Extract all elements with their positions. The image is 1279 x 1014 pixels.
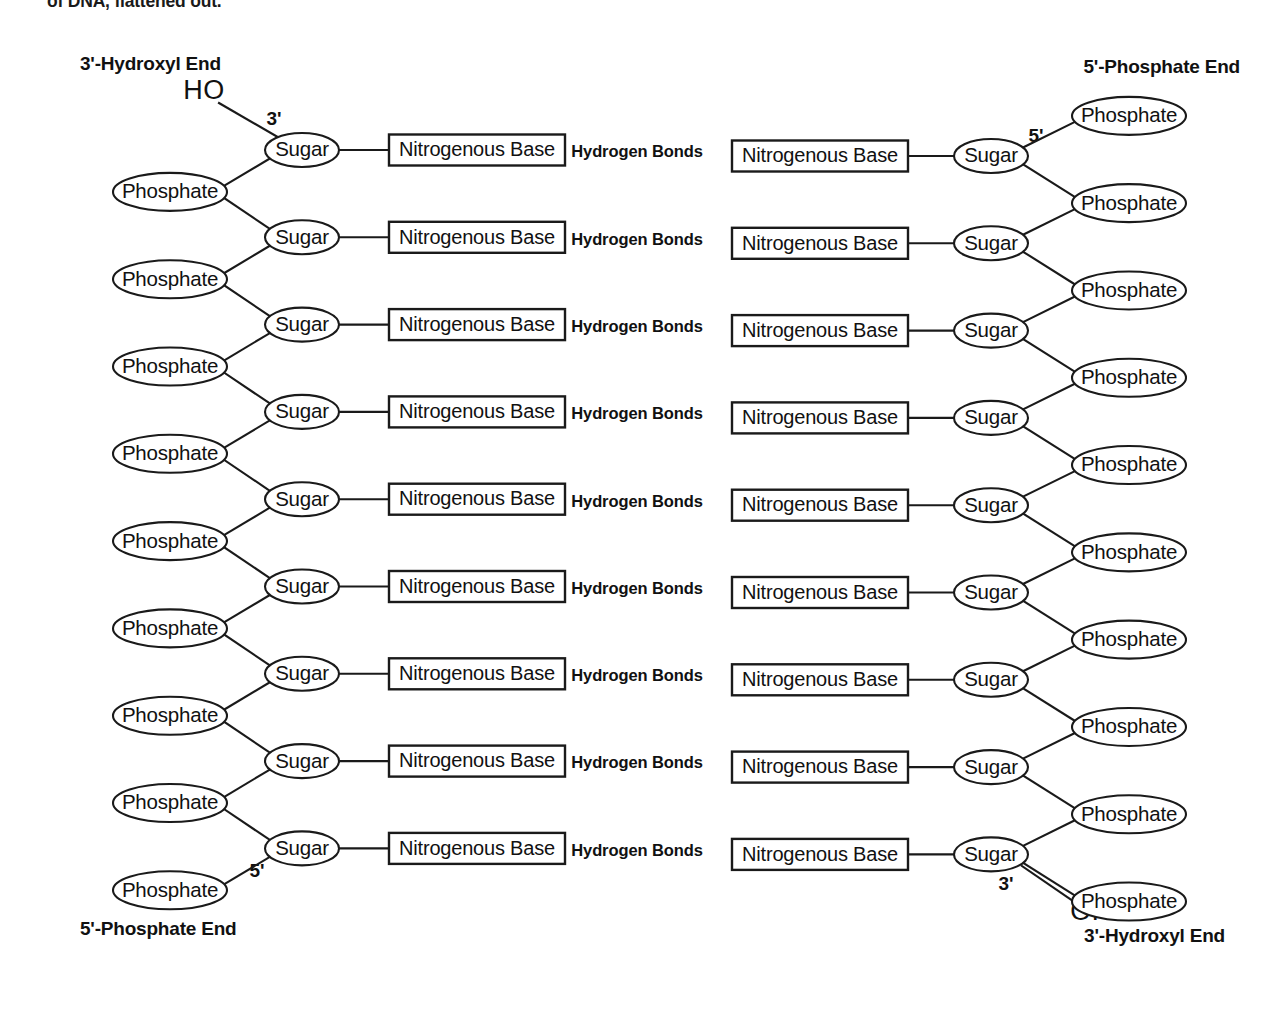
left-base-label-7: Nitrogenous Base [399, 662, 555, 684]
bond-right-sugar-9-to-phosphate-9 [1024, 820, 1075, 845]
nucleotide-nodes-group: Nitrogenous BaseNitrogenous BaseSugarPho… [113, 97, 1186, 921]
bond-right-sugar-5-to-phosphate-5 [1024, 471, 1075, 496]
right-sugar-label-6: Sugar [964, 580, 1018, 603]
bond-left-phosphate-3-to-sugar-4 [224, 373, 269, 403]
bond-left-phosphate-2-to-sugar-3 [224, 285, 269, 315]
dna-diagram-canvas: 3'-Hydroxyl End 5'-Phosphate End 5'-Phos… [0, 0, 1279, 1014]
right-base-label-1: Nitrogenous Base [742, 144, 898, 166]
bond-right-sugar-3-to-phosphate-4 [1024, 340, 1075, 372]
right-phosphate-label-1: Phosphate [1081, 103, 1177, 126]
bond-left-sugar-2-to-phosphate-2 [224, 246, 269, 273]
label-hydroxyl-top: HO [183, 75, 225, 105]
label-prime-bottom-right: 3' [998, 873, 1013, 894]
right-base-label-9: Nitrogenous Base [742, 843, 898, 865]
left-phosphate-label-3: Phosphate [122, 354, 218, 377]
bond-right-sugar-2-to-phosphate-3 [1024, 252, 1075, 284]
bond-right-sugar-4-to-phosphate-5 [1024, 427, 1075, 459]
left-phosphate-label-5: Phosphate [122, 529, 218, 552]
right-sugar-label-1: Sugar [964, 143, 1018, 166]
left-phosphate-label-1: Phosphate [122, 179, 218, 202]
right-base-label-3: Nitrogenous Base [742, 319, 898, 341]
left-base-label-9: Nitrogenous Base [399, 837, 555, 859]
left-phosphate-label-6: Phosphate [122, 616, 218, 639]
hydrogen-bonds-label-2: Hydrogen Bonds [571, 230, 703, 248]
bond-right-sugar-1-to-phosphate-2 [1024, 165, 1075, 197]
label-top-left-end: 3'-Hydroxyl End [80, 53, 221, 74]
bond-left-phosphate-4-to-sugar-5 [224, 460, 269, 490]
left-sugar-label-2: Sugar [275, 225, 329, 248]
left-base-label-2: Nitrogenous Base [399, 226, 555, 248]
left-phosphate-label-7: Phosphate [122, 703, 218, 726]
right-sugar-label-4: Sugar [964, 405, 1018, 428]
bond-right-sugar-7-to-phosphate-7 [1024, 646, 1075, 671]
bond-left-sugar-6-to-phosphate-6 [224, 596, 269, 623]
right-base-label-2: Nitrogenous Base [742, 232, 898, 254]
right-sugar-label-2: Sugar [964, 231, 1018, 254]
label-top-right-end: 5'-Phosphate End [1083, 56, 1240, 77]
hydrogen-bonds-label-3: Hydrogen Bonds [571, 317, 703, 335]
hydrogen-bonds-label-4: Hydrogen Bonds [571, 404, 703, 422]
label-prime-bottom-left: 5' [249, 860, 264, 881]
left-sugar-label-8: Sugar [275, 749, 329, 772]
bond-left-phosphate-1-to-sugar-2 [224, 198, 269, 228]
right-base-label-6: Nitrogenous Base [742, 581, 898, 603]
bond-right-sugar-6-to-phosphate-7 [1024, 602, 1075, 634]
right-sugar-label-8: Sugar [964, 755, 1018, 778]
bond-right-sugar-5-to-phosphate-6 [1024, 514, 1075, 546]
bond-right-sugar-8-to-phosphate-9 [1024, 776, 1075, 808]
left-phosphate-label-8: Phosphate [122, 790, 218, 813]
bond-left-sugar-5-to-phosphate-5 [224, 508, 269, 535]
right-phosphate-label-2: Phosphate [1081, 191, 1177, 214]
right-base-label-4: Nitrogenous Base [742, 406, 898, 428]
bond-left-sugar-4-to-phosphate-4 [224, 421, 269, 448]
bond-left-phosphate-5-to-sugar-6 [224, 547, 269, 577]
left-base-label-8: Nitrogenous Base [399, 749, 555, 771]
bond-left-sugar-8-to-phosphate-8 [224, 770, 269, 797]
hydrogen-bonds-label-5: Hydrogen Bonds [571, 492, 703, 510]
left-sugar-label-1: Sugar [275, 137, 329, 160]
left-phosphate-label-4: Phosphate [122, 441, 218, 464]
left-base-label-4: Nitrogenous Base [399, 400, 555, 422]
hydrogen-bonds-label-7: Hydrogen Bonds [571, 666, 703, 684]
right-sugar-label-5: Sugar [964, 493, 1018, 516]
left-sugar-label-7: Sugar [275, 661, 329, 684]
hydrogen-bonds-label-6: Hydrogen Bonds [571, 579, 703, 597]
left-sugar-label-5: Sugar [275, 487, 329, 510]
left-base-label-3: Nitrogenous Base [399, 313, 555, 335]
left-sugar-label-9: Sugar [275, 836, 329, 859]
right-sugar-label-9: Sugar [964, 842, 1018, 865]
bond-left-sugar-7-to-phosphate-7 [224, 683, 269, 710]
right-phosphate-label-3: Phosphate [1081, 278, 1177, 301]
right-base-label-7: Nitrogenous Base [742, 668, 898, 690]
right-phosphate-label-8: Phosphate [1081, 714, 1177, 737]
bond-left-phosphate-7-to-sugar-8 [224, 722, 269, 752]
left-phosphate-label-2: Phosphate [122, 267, 218, 290]
right-phosphate-label-7: Phosphate [1081, 627, 1177, 650]
bond-right-sugar-3-to-phosphate-3 [1024, 296, 1075, 321]
left-sugar-label-3: Sugar [275, 312, 329, 335]
figure-caption-clipped: of DNA, flattened out. [47, 0, 221, 12]
bond-sugar-to-oh-bottom-right [1022, 866, 1073, 901]
bond-right-sugar-8-to-phosphate-8 [1024, 733, 1075, 758]
left-phosphate-label-9: Phosphate [122, 878, 218, 901]
left-base-label-5: Nitrogenous Base [399, 487, 555, 509]
bond-right-sugar-2-to-phosphate-2 [1024, 209, 1075, 234]
label-bottom-right-end: 3'-Hydroxyl End [1084, 925, 1225, 946]
left-base-label-1: Nitrogenous Base [399, 138, 555, 160]
left-base-label-6: Nitrogenous Base [399, 575, 555, 597]
label-bottom-left-end: 5'-Phosphate End [80, 918, 237, 939]
bond-right-sugar-7-to-phosphate-8 [1024, 689, 1075, 721]
bond-right-sugar-4-to-phosphate-4 [1024, 384, 1075, 409]
dna-structure-diagram: of DNA, flattened out. 3'-Hydroxyl End 5… [0, 0, 1279, 1014]
bond-left-phosphate-6-to-sugar-7 [224, 634, 269, 664]
bond-left-sugar-3-to-phosphate-3 [224, 334, 269, 361]
right-base-label-5: Nitrogenous Base [742, 493, 898, 515]
hydrogen-bonds-label-8: Hydrogen Bonds [571, 753, 703, 771]
right-phosphate-label-4: Phosphate [1081, 365, 1177, 388]
right-phosphate-label-9: Phosphate [1081, 802, 1177, 825]
bond-left-phosphate-8-to-sugar-9 [224, 809, 269, 839]
right-phosphate-label-6: Phosphate [1081, 540, 1177, 563]
right-phosphate-label-9-terminal: Phosphate [1081, 889, 1177, 912]
right-sugar-label-3: Sugar [964, 318, 1018, 341]
label-prime-top-left: 3' [266, 108, 281, 129]
